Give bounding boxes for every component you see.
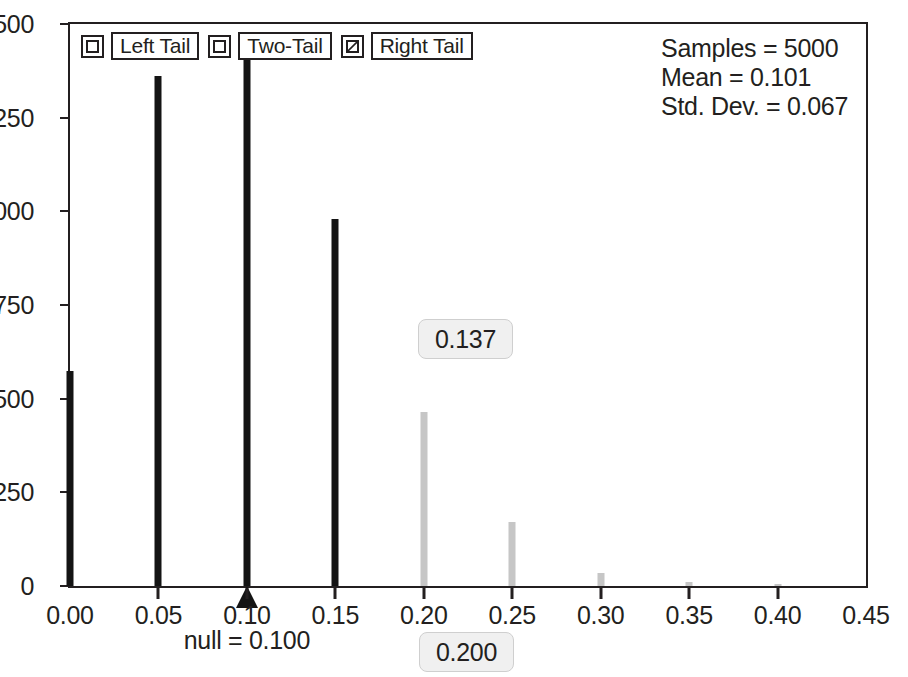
histogram-bar: [243, 60, 250, 586]
histogram-bar: [774, 584, 781, 586]
cutoff-value-input[interactable]: 0.200: [419, 632, 514, 672]
y-axis-tick-label: 0: [20, 572, 34, 601]
checkbox-unchecked-icon[interactable]: [81, 35, 104, 58]
histogram-bar: [509, 522, 516, 586]
histogram-bar: [67, 371, 74, 586]
x-axis-tick-label: 0.25: [488, 601, 535, 630]
y-axis-tick-label: 500: [0, 384, 34, 413]
y-axis-tick-mark: [60, 304, 68, 306]
x-axis: null = 0.100 0.000.050.100.150.200.250.3…: [68, 588, 868, 634]
x-axis-tick-mark: [334, 588, 337, 599]
x-axis-tick-label: 0.00: [46, 601, 93, 630]
x-axis-tick-mark: [776, 588, 779, 599]
x-axis-tick-mark: [245, 588, 248, 599]
legend-item-right-tail[interactable]: Right Tail: [341, 32, 473, 60]
histogram-bar: [155, 76, 162, 586]
x-axis-tick-label: 0.20: [400, 601, 447, 630]
y-axis-tick-label: 1250: [0, 103, 34, 132]
histogram-bar: [420, 412, 427, 586]
x-axis-tick-label: 0.30: [577, 601, 624, 630]
x-axis-tick-mark: [688, 588, 691, 599]
y-axis-tick-mark: [60, 210, 68, 212]
tail-proportion-value[interactable]: 0.137: [418, 319, 513, 359]
mean-stat: Mean = 0.101: [661, 63, 848, 92]
y-axis-tick-label: 1000: [0, 197, 34, 226]
x-axis-tick-mark: [511, 588, 514, 599]
checkbox-unchecked-icon[interactable]: [208, 35, 231, 58]
tail-selection-legend[interactable]: Left TailTwo-TailRight Tail: [81, 32, 473, 60]
y-axis-tick-mark: [60, 23, 68, 25]
legend-item-label[interactable]: Right Tail: [371, 32, 473, 60]
x-axis-tick-label: 0.05: [135, 601, 182, 630]
x-axis-tick-label: 0.40: [754, 601, 801, 630]
sampling-distribution-applet: 0250500750100012501500 Left TailTwo-Tail…: [0, 0, 908, 677]
samples-stat: Samples = 5000: [661, 34, 848, 63]
x-axis-tick-label: 0.10: [223, 601, 270, 630]
x-axis-tick-label: 0.15: [312, 601, 359, 630]
plot-frame: Left TailTwo-TailRight Tail Samples = 50…: [68, 22, 868, 588]
checkbox-checked-icon[interactable]: [341, 35, 364, 58]
legend-item-label[interactable]: Left Tail: [111, 32, 199, 60]
std-dev-stat: Std. Dev. = 0.067: [661, 92, 848, 121]
y-axis-tick-label: 750: [0, 291, 34, 320]
x-axis-tick-label: 0.35: [665, 601, 712, 630]
x-axis-tick-mark: [157, 588, 160, 599]
y-axis-tick-label: 1500: [0, 10, 34, 39]
x-axis-tick-label: 0.45: [842, 601, 889, 630]
y-axis-tick-label: 250: [0, 478, 34, 507]
histogram-bar: [332, 219, 339, 586]
statistics-panel: Samples = 5000 Mean = 0.101 Std. Dev. = …: [661, 34, 848, 121]
legend-item-left-tail[interactable]: Left Tail: [81, 32, 199, 60]
null-hypothesis-label: null = 0.100: [184, 626, 310, 655]
legend-item-two-tail[interactable]: Two-Tail: [208, 32, 331, 60]
histogram-bar: [597, 573, 604, 586]
x-axis-tick-mark: [599, 588, 602, 599]
legend-item-label[interactable]: Two-Tail: [238, 32, 331, 60]
x-axis-tick-mark: [422, 588, 425, 599]
histogram-bar: [686, 582, 693, 586]
y-axis-tick-mark: [60, 117, 68, 119]
